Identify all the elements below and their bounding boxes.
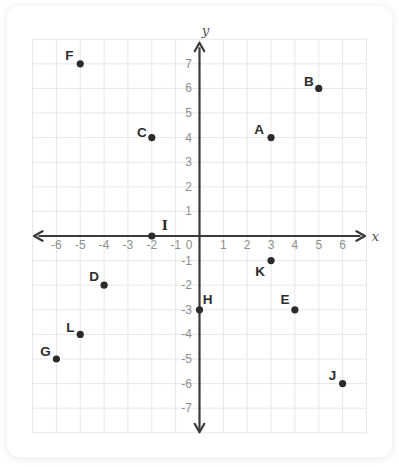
y-tick-label-3: 3 (185, 155, 192, 169)
y-tick-label--3: -3 (181, 303, 192, 317)
x-tick-label-3: 3 (268, 238, 275, 252)
point-label-H: H (203, 292, 213, 307)
point-label-C: C (137, 125, 147, 140)
y-tick-label--7: -7 (181, 401, 192, 415)
y-tick-label--1: -1 (181, 254, 192, 268)
x-tick-label--6: -6 (51, 238, 62, 252)
point-dot-D (101, 282, 108, 289)
point-dot-L (77, 331, 84, 338)
point-label-J: J (329, 368, 337, 383)
point-dot-I (148, 232, 155, 239)
point-dot-A (267, 134, 274, 141)
y-tick-label-6: 6 (185, 81, 192, 95)
x-tick-label-4: 4 (292, 238, 299, 252)
x-tick-label--2: -2 (146, 238, 157, 252)
y-tick-label-1: 1 (185, 204, 192, 218)
point-dot-C (148, 134, 155, 141)
point-label-K: K (255, 264, 265, 279)
x-axis-label: x (371, 228, 379, 244)
x-tick-label-6: 6 (339, 238, 346, 252)
point-label-I: I (162, 218, 168, 233)
point-dot-J (339, 380, 346, 387)
x-tick-label--4: -4 (99, 238, 110, 252)
point-dot-K (267, 257, 274, 264)
point-label-A: A (254, 122, 264, 137)
y-tick-label--4: -4 (181, 327, 192, 341)
point-label-F: F (65, 48, 73, 63)
point-label-G: G (40, 344, 51, 359)
x-tick-label-1: 1 (220, 238, 227, 252)
point-dot-E (291, 306, 298, 313)
point-dot-F (77, 60, 84, 67)
y-tick-label--6: -6 (181, 377, 192, 391)
x-tick-label-5: 5 (315, 238, 322, 252)
x-tick-label--1: -1 (170, 238, 181, 252)
x-tick-label-0: 0 (186, 238, 193, 252)
point-dot-B (315, 85, 322, 92)
x-tick-label--3: -3 (123, 238, 134, 252)
y-tick-label-4: 4 (185, 131, 192, 145)
point-label-D: D (89, 269, 99, 284)
point-label-B: B (304, 74, 314, 89)
x-tick-label--5: -5 (75, 238, 86, 252)
coordinate-plane: xy-6-5-4-3-2-101234567654321-1-2-3-4-5-6… (0, 0, 399, 467)
y-tick-label-5: 5 (185, 106, 192, 120)
point-dot-G (53, 355, 60, 362)
y-tick-label-2: 2 (185, 180, 192, 194)
point-label-L: L (66, 320, 74, 335)
y-tick-label--2: -2 (181, 278, 192, 292)
screenshot-stage: xy-6-5-4-3-2-101234567654321-1-2-3-4-5-6… (0, 0, 399, 467)
point-label-E: E (280, 292, 289, 307)
y-tick-label-7: 7 (185, 57, 192, 71)
y-tick-label--5: -5 (181, 352, 192, 366)
y-axis-label: y (201, 22, 210, 38)
x-tick-label-2: 2 (244, 238, 251, 252)
